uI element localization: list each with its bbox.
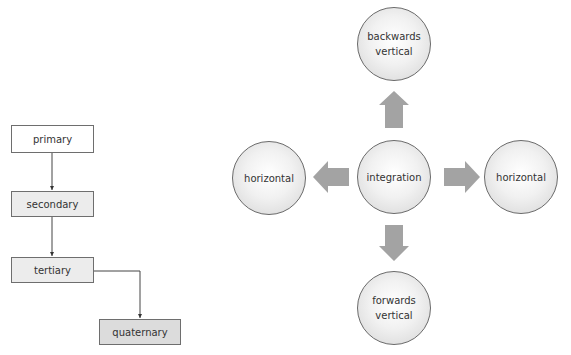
node-label: quaternary [112, 327, 167, 338]
node-primary: primary [11, 125, 94, 153]
circle-label: horizontal [244, 171, 294, 186]
connector-tertiary-quaternary [94, 271, 140, 318]
circle-label-line1: backwards [367, 29, 421, 44]
node-label: secondary [27, 199, 79, 210]
circle-backwards-vertical: backwards vertical [357, 7, 431, 81]
circle-integration: integration [357, 140, 431, 214]
node-label: primary [33, 134, 72, 145]
arrowhead-icon [138, 314, 142, 318]
circle-label-line2: vertical [372, 308, 416, 323]
node-quaternary: quaternary [99, 319, 181, 345]
circle-label-line1: forwards [372, 293, 416, 308]
arrow-down-icon [379, 225, 409, 261]
node-tertiary: tertiary [11, 257, 94, 283]
circle-label-line2: vertical [367, 44, 421, 59]
circle-horizontal-right: horizontal [484, 140, 558, 214]
circle-label: integration [367, 170, 422, 185]
arrowhead-icon [50, 186, 54, 190]
arrow-left-icon [313, 161, 349, 193]
node-secondary: secondary [11, 191, 94, 217]
arrow-right-icon [444, 161, 480, 193]
circle-label: horizontal [496, 170, 546, 185]
arrowhead-icon [50, 252, 54, 256]
circle-forwards-vertical: forwards vertical [357, 271, 431, 345]
node-label: tertiary [34, 265, 71, 276]
circle-horizontal-left: horizontal [232, 141, 306, 215]
arrow-up-icon [379, 91, 409, 128]
